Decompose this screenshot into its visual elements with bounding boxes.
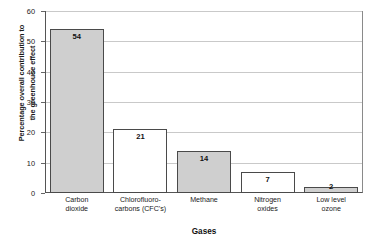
y-axis-tick-label: 50 — [27, 37, 35, 46]
bar-value-label: 14 — [178, 154, 230, 163]
category-label: Low levelozone — [299, 196, 363, 215]
category-label-line: Nitrogen — [237, 196, 299, 205]
y-axis-tick — [41, 132, 45, 133]
bar-value-label: 21 — [114, 132, 166, 141]
category-label-line: carbons (CFC's) — [110, 205, 172, 214]
bar-value-label: 2 — [305, 182, 357, 191]
y-axis-tick — [41, 193, 45, 194]
bar-series: 54211472 — [45, 11, 363, 193]
y-axis-tick-label: 40 — [27, 67, 35, 76]
bar-slot: 21 — [109, 11, 173, 193]
category-label-line: dioxide — [46, 205, 108, 214]
y-axis-tick — [41, 11, 45, 12]
category-label-line: ozone — [300, 205, 362, 214]
category-label-line: Low level — [300, 196, 362, 205]
y-axis-tick-label: 0 — [31, 189, 35, 198]
y-axis-tick — [41, 102, 45, 103]
bar-slot: 7 — [236, 11, 300, 193]
y-axis-tick-labels: 0102030405060 — [0, 11, 41, 193]
bar-slot: 54 — [45, 11, 109, 193]
category-label: Methane — [172, 196, 236, 215]
category-label: Nitrogenoxides — [236, 196, 300, 215]
bar-value-label: 7 — [242, 175, 294, 184]
x-axis-title: Gases — [45, 227, 363, 236]
bar-value-label: 54 — [51, 32, 103, 41]
bar-slot: 14 — [172, 11, 236, 193]
y-axis-tick-label: 60 — [27, 7, 35, 16]
category-label-line: Chlorofluoro- — [110, 196, 172, 205]
y-axis-tick-label: 10 — [27, 158, 35, 167]
bar[interactable]: 21 — [113, 129, 167, 193]
x-axis-category-labels: CarbondioxideChlorofluoro-carbons (CFC's… — [45, 196, 363, 215]
bar[interactable]: 7 — [241, 172, 295, 193]
category-label: Carbondioxide — [45, 196, 109, 215]
y-axis-tick-label: 20 — [27, 128, 35, 137]
y-axis-tick-label: 30 — [27, 98, 35, 107]
bar[interactable]: 2 — [304, 187, 358, 193]
category-label-line: oxides — [237, 205, 299, 214]
bar-slot: 2 — [299, 11, 363, 193]
category-label-line: Methane — [173, 196, 235, 205]
y-axis-tick — [41, 41, 45, 42]
bar[interactable]: 54 — [50, 29, 104, 193]
y-axis-tick — [41, 72, 45, 73]
bar[interactable]: 14 — [177, 151, 231, 193]
bar-chart: Percentage overall contribution to the g… — [0, 0, 374, 245]
category-label-line: Carbon — [46, 196, 108, 205]
y-axis-tick — [41, 163, 45, 164]
category-label: Chlorofluoro-carbons (CFC's) — [109, 196, 173, 215]
